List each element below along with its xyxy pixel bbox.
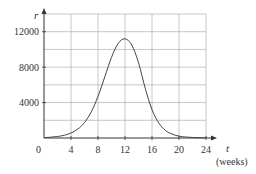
x-axis-unit-label: (weeks) (216, 156, 248, 168)
x-tick-labels: 4812162024 (69, 144, 212, 155)
x-tick-label: 4 (69, 144, 74, 155)
x-axis-arrow-icon (211, 136, 217, 141)
x-tick-label: 24 (201, 144, 211, 155)
x-tick-label: 16 (147, 144, 157, 155)
x-axis-label: t (226, 142, 230, 154)
y-tick-label: 4000 (19, 97, 39, 108)
y-tick-label: 8000 (19, 62, 39, 73)
grid-lines (44, 14, 206, 138)
x-tick-label: 8 (96, 144, 101, 155)
line-chart: 4812162024 4000800012000 0 r t (weeks) (0, 0, 256, 174)
origin-label: 0 (36, 144, 41, 155)
y-axis-arrow-icon (42, 8, 47, 14)
y-tick-label: 12000 (14, 26, 39, 37)
y-axis-label: r (34, 9, 39, 21)
x-tick-label: 20 (174, 144, 184, 155)
y-tick-labels: 4000800012000 (14, 26, 39, 108)
x-tick-label: 12 (120, 144, 130, 155)
